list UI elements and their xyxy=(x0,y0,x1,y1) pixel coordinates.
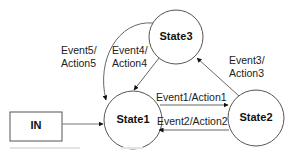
state2-label: State2 xyxy=(226,111,286,123)
event3-label-line2: Action3 xyxy=(229,67,264,80)
event1-label: Event1/Action1 xyxy=(156,91,227,104)
state1-label: State1 xyxy=(103,113,163,125)
event3-label-line1: Event3/ xyxy=(229,54,265,67)
event2-label: Event2/Action2 xyxy=(157,115,228,128)
event4-label-line2: Action4 xyxy=(112,57,147,70)
state3-label: State3 xyxy=(146,30,206,42)
event5-label-line1: Event5/ xyxy=(61,44,97,57)
start-box-label: IN xyxy=(10,119,62,131)
event4-label-line1: Event4/ xyxy=(112,44,148,57)
event5-label-line2: Action5 xyxy=(61,57,96,70)
